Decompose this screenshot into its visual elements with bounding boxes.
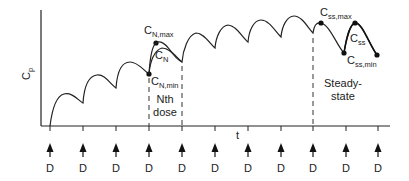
css-peak-dot bbox=[352, 20, 357, 25]
dose-label: D bbox=[342, 162, 350, 174]
cn-max-label: CN,max bbox=[144, 24, 174, 39]
css-label: Css bbox=[350, 32, 366, 47]
dose-arrowhead-icon bbox=[179, 143, 186, 152]
dose-markers: DDDDDDDDDDD bbox=[46, 126, 382, 174]
dose-arrowhead-icon bbox=[47, 143, 54, 152]
css-max-label: Css,max bbox=[320, 6, 352, 21]
dose-label: D bbox=[309, 162, 317, 174]
dose-label: D bbox=[211, 162, 219, 174]
cn-label: CN bbox=[155, 49, 168, 64]
diagram-canvas: Cp t CN,max CN CN,min Nth dose Css,max C… bbox=[0, 0, 409, 181]
dose-arrowhead-icon bbox=[343, 143, 350, 152]
x-axis-label: t bbox=[236, 129, 239, 141]
dose-label: D bbox=[374, 162, 382, 174]
css-min-dot bbox=[341, 50, 346, 55]
cn-min-label: CN,min bbox=[151, 75, 179, 90]
dose-label: D bbox=[178, 162, 186, 174]
steady-state-label-1: Steady- bbox=[324, 77, 362, 89]
dose-arrowhead-icon bbox=[80, 143, 87, 152]
dose-arrowhead-icon bbox=[278, 143, 285, 152]
dose-arrowhead-icon bbox=[310, 143, 317, 152]
dose-arrowhead-icon bbox=[113, 143, 120, 152]
dose-label: D bbox=[112, 162, 120, 174]
dose-label: D bbox=[46, 162, 54, 174]
dose-arrowhead-icon bbox=[245, 143, 252, 152]
concentration-curve bbox=[50, 16, 377, 126]
dose-label: D bbox=[277, 162, 285, 174]
dose-arrowhead-icon bbox=[212, 143, 219, 152]
svg-text:Cp: Cp bbox=[20, 68, 35, 80]
dose-arrowhead-icon bbox=[375, 143, 382, 152]
pk-diagram: Cp t CN,max CN CN,min Nth dose Css,max C… bbox=[0, 0, 409, 181]
nth-dose-label-1: Nth bbox=[156, 93, 173, 105]
steady-state-label-2: state bbox=[331, 90, 355, 102]
dose-label: D bbox=[79, 162, 87, 174]
css-max-dot bbox=[318, 20, 323, 25]
nth-dose-label-2: dose bbox=[153, 106, 177, 118]
css-min-label: Css,min bbox=[347, 54, 377, 69]
dose-label: D bbox=[145, 162, 153, 174]
y-axis-label: Cp bbox=[20, 68, 35, 80]
dose-label: D bbox=[244, 162, 252, 174]
dose-arrowhead-icon bbox=[146, 143, 153, 152]
css-end-dot bbox=[374, 52, 379, 57]
